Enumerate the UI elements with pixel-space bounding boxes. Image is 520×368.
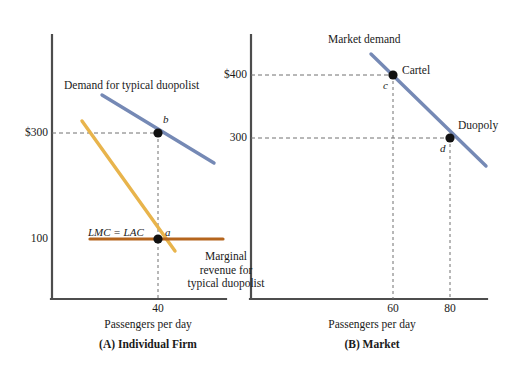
- point-c-marker: [388, 70, 397, 79]
- point-a-label: a: [165, 226, 171, 239]
- panel-b-caption: (B) Market: [344, 338, 399, 352]
- panel-b-xtick-80: 80: [444, 302, 456, 316]
- panel-b-guide-lines: [251, 75, 450, 299]
- point-c-label: c: [383, 79, 388, 92]
- cartel-label: Cartel: [402, 64, 430, 78]
- panel-a-caption: (A) Individual Firm: [99, 338, 197, 352]
- panel-a-ytick-100: 100: [31, 232, 48, 246]
- figure-svg: [0, 0, 520, 368]
- panel-a-guide-lines: [52, 133, 158, 299]
- mr-label-line-3: typical duopolist: [188, 277, 265, 289]
- panel-a-ytick-300: $300: [25, 126, 48, 140]
- marginal-revenue-label-firm: Marginal revenue for typical duopolist: [180, 250, 272, 291]
- panel-b-ytick-400: $400: [224, 68, 247, 82]
- panel-b-xtick-60: 60: [387, 302, 399, 316]
- point-d-label: d: [440, 142, 446, 155]
- mr-label-line-1: Marginal: [205, 250, 247, 262]
- market-demand-label: Market demand: [328, 33, 401, 47]
- point-b-label: b: [163, 113, 169, 126]
- panel-b-xaxis-title: Passengers per day: [328, 318, 416, 332]
- point-b-marker: [153, 128, 162, 137]
- panel-b-ytick-300: 300: [230, 131, 247, 145]
- mr-label-line-2: revenue for: [200, 264, 253, 276]
- figure-container: $300 100 40 Passengers per day Demand fo…: [0, 0, 520, 368]
- lmc-lac-label: LMC = LAC: [88, 226, 144, 239]
- panel-a-xtick-40: 40: [152, 302, 164, 316]
- point-d-marker: [445, 133, 454, 142]
- panel-b-axes: [250, 35, 487, 299]
- demand-curve-label-firm: Demand for typical duopolist: [64, 79, 199, 93]
- point-a-marker: [153, 234, 162, 243]
- duopoly-label: Duopoly: [458, 119, 498, 133]
- panel-a-xaxis-title: Passengers per day: [104, 318, 192, 332]
